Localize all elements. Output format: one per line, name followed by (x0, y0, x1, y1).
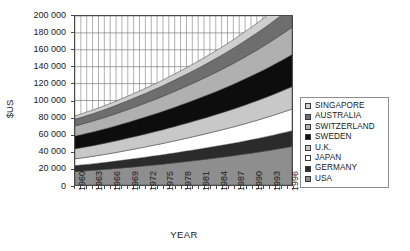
x-tick-label: 1975 (166, 171, 175, 191)
y-tick (71, 118, 74, 119)
chart-figure: $US 200 000180 000160 000140 000120 0001… (0, 0, 410, 251)
x-tick (127, 186, 128, 189)
x-tick (74, 186, 75, 189)
x-tick (287, 186, 288, 189)
legend-swatch-icon (305, 134, 311, 140)
x-tick (145, 186, 146, 189)
x-tick (110, 186, 111, 189)
x-tick-label: 1996 (291, 171, 300, 191)
legend-swatch-icon (305, 103, 311, 109)
legend-item[interactable]: USA (305, 174, 385, 184)
x-tick-label: 1960 (78, 171, 87, 191)
legend-item[interactable]: U.K. (305, 143, 385, 153)
y-tick (71, 135, 74, 136)
legend-item[interactable]: SWEDEN (305, 132, 385, 142)
legend-swatch-icon (305, 145, 311, 151)
legend-swatch-icon (305, 124, 311, 130)
x-tick-label: 1984 (220, 171, 229, 191)
x-tick-label: 1969 (131, 171, 140, 191)
y-tick (71, 66, 74, 67)
x-tick (198, 186, 199, 189)
x-tick (181, 186, 182, 189)
y-tick (71, 169, 74, 170)
y-tick (71, 101, 74, 102)
legend-item-label: JAPAN (315, 154, 341, 162)
y-tick (71, 32, 74, 33)
legend-item-label: SINGAPORE (315, 102, 365, 110)
x-axis-title: YEAR (119, 230, 249, 240)
legend-swatch-icon (305, 176, 311, 182)
legend-item[interactable]: AUSTRALIA (305, 111, 385, 121)
legend-item-label: USA (315, 175, 332, 183)
legend-item[interactable]: GERMANY (305, 163, 385, 173)
legend-item[interactable]: SWITZERLAND (305, 122, 385, 132)
x-tick (92, 186, 93, 189)
x-tick-label: 1990 (255, 171, 264, 191)
chart-legend: SINGAPORE AUSTRALIA SWITZERLAND SWEDEN U… (300, 97, 389, 188)
y-tick (71, 15, 74, 16)
y-tick (71, 152, 74, 153)
legend-item[interactable]: JAPAN (305, 153, 385, 163)
x-tick-label: 1978 (184, 171, 193, 191)
x-tick-label: 1966 (113, 171, 122, 191)
x-tick-label: 1972 (149, 171, 158, 191)
legend-item-label: GERMANY (315, 164, 357, 172)
legend-item-label: SWEDEN (315, 133, 352, 141)
x-tick-label: 1963 (95, 171, 104, 191)
x-tick-label: 1987 (237, 171, 246, 191)
x-tick (269, 186, 270, 189)
x-tick (234, 186, 235, 189)
legend-item[interactable]: SINGAPORE (305, 101, 385, 111)
legend-swatch-icon (305, 166, 311, 172)
legend-item-label: U.K. (315, 144, 331, 152)
x-tick (252, 186, 253, 189)
legend-swatch-icon (305, 155, 311, 161)
x-tick-label: 1993 (273, 171, 282, 191)
legend-item-label: SWITZERLAND (315, 123, 375, 131)
y-tick (71, 186, 74, 187)
x-tick (163, 186, 164, 189)
x-tick (216, 186, 217, 189)
x-tick-label: 1981 (202, 171, 211, 191)
y-tick (71, 83, 74, 84)
legend-item-label: AUSTRALIA (315, 112, 361, 120)
y-tick (71, 49, 74, 50)
legend-swatch-icon (305, 114, 311, 120)
